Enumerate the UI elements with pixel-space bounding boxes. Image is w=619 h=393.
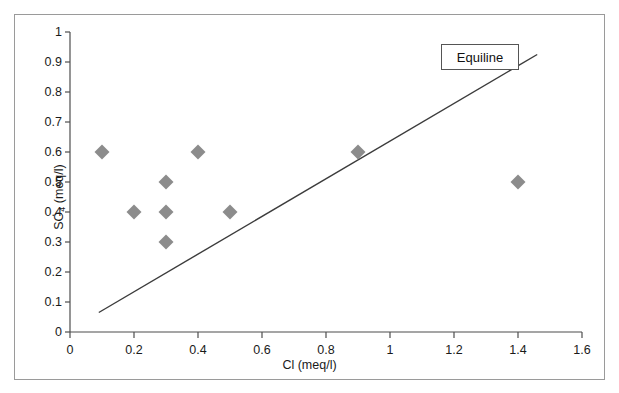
x-tick-label: 0.6 — [253, 343, 270, 357]
y-tick-label: 1 — [20, 25, 62, 39]
y-axis-title: SO4 (meq/l) — [52, 132, 66, 262]
x-tick-label: 1 — [387, 343, 394, 357]
y-axis-title-base: SO — [52, 212, 66, 230]
y-tick-label: 0.9 — [20, 55, 62, 69]
chart-figure: 00.10.20.30.40.50.60.70.80.9100.20.40.60… — [0, 0, 619, 393]
x-tick-label: 1.6 — [573, 343, 590, 357]
y-tick-label: 0.8 — [20, 85, 62, 99]
y-tick-label: 0.2 — [20, 265, 62, 279]
equiline-legend-callout[interactable]: Equiline — [441, 44, 519, 70]
x-axis-title: Cl (meq/l) — [0, 358, 619, 372]
y-tick-label: 0.1 — [20, 295, 62, 309]
x-tick-label: 0.2 — [125, 343, 142, 357]
y-axis-title-subscript: 4 — [57, 207, 67, 212]
x-tick-label: 0 — [67, 343, 74, 357]
x-tick-label: 1.4 — [509, 343, 526, 357]
equiline-legend-label: Equiline — [457, 50, 503, 65]
y-tick-label: 0.7 — [20, 115, 62, 129]
x-tick-label: 1.2 — [445, 343, 462, 357]
x-tick-label: 0.8 — [317, 343, 334, 357]
x-tick-label: 0.4 — [189, 343, 206, 357]
y-axis-title-tail: (meq/l) — [52, 164, 66, 206]
y-tick-label: 0 — [20, 325, 62, 339]
